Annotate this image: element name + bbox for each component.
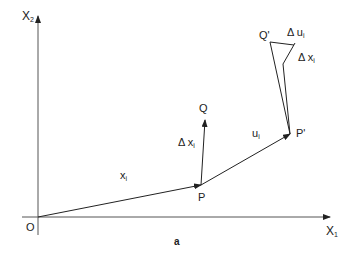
point-q-label: Q [199,103,208,114]
vector-x-i [38,185,201,217]
point-q-prime-label: Q' [259,30,270,41]
triangle-edge [270,42,294,45]
vector-delta-u-i [283,43,295,64]
vector-x-i-label: xi [120,170,127,182]
point-p-prime-label: P' [296,128,305,139]
vector-u-i-label: ui [252,128,260,140]
vector-delta-x-i-prime-label: Δ xi [298,52,315,64]
triangle-edge-2 [270,42,290,134]
point-p-label: P [198,192,205,203]
origin-label: O [26,222,35,233]
x1-axis-label: X1 [326,225,338,238]
vector-u-i [201,134,290,185]
vector-delta-u-i-label: Δ ui [287,27,304,39]
vector-delta-x-i-prime [283,64,290,134]
vector-delta-x-i [201,120,205,185]
vector-delta-x-i-label: Δ xi [178,137,195,149]
figure-caption: a [174,236,180,247]
x2-axis-label: X2 [22,10,34,23]
